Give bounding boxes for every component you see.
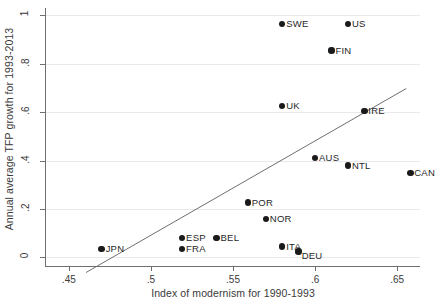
y-axis-title: Annual average TFP growth for 1993-2013 [0,0,18,258]
y-axis-tick [40,257,45,258]
data-point-marker [263,216,269,222]
x-axis-tick-label: .65 [377,274,417,285]
y-axis-tick [40,209,45,210]
x-axis-tick-label: .6 [295,274,335,285]
x-axis-tick [397,266,398,271]
data-point-marker [345,162,351,168]
fit-line [46,8,420,266]
plot-area: 0.2.4.6.81 .45.5.55.6.65 SWEUSFINUKIREAU… [46,8,420,266]
y-axis-tick-label: 0 [14,250,36,261]
data-point-label: IRE [368,105,384,116]
data-point-label: NOR [270,213,292,224]
data-point-marker [407,170,413,176]
data-point-label: DEU [302,250,323,261]
data-point-label: UK [286,100,300,111]
data-point-marker [328,47,334,53]
data-point-label: US [352,18,366,29]
y-axis-tick-label: .4 [14,154,36,165]
data-point-label: AUS [319,152,339,163]
x-axis-tick [315,266,316,271]
y-axis-tick [40,161,45,162]
x-axis-tick-label: .5 [131,274,171,285]
data-point-label: BEL [221,232,240,243]
y-axis-tick-label: .6 [14,105,36,116]
x-axis-tick [69,266,70,271]
y-axis-tick [40,15,45,16]
data-point-label: FIN [336,45,352,56]
x-axis-tick [151,266,152,271]
data-point-label: NTL [352,160,371,171]
data-point-marker [213,235,219,241]
data-point-label: POR [252,197,273,208]
data-point-marker [245,199,251,205]
y-axis-tick [40,64,45,65]
x-axis-tick [233,266,234,271]
y-axis-tick [40,112,45,113]
x-axis-tick-label: .55 [213,274,253,285]
data-point-marker [98,246,104,252]
data-point-label: SWE [286,18,308,29]
data-point-label: JPN [106,243,125,254]
x-axis-tick-label: .45 [49,274,89,285]
y-axis-tick-label: .8 [14,57,36,68]
data-point-label: CAN [414,167,435,178]
y-axis-tick-label: 1 [14,8,36,19]
data-point-label: ESP [186,232,206,243]
y-axis-tick-label: .2 [14,202,36,213]
fit-line-segment [86,89,406,273]
x-axis-title: Index of modernism for 1990-1993 [46,287,420,299]
data-point-marker [361,108,367,114]
data-point-label: FRA [186,243,206,254]
